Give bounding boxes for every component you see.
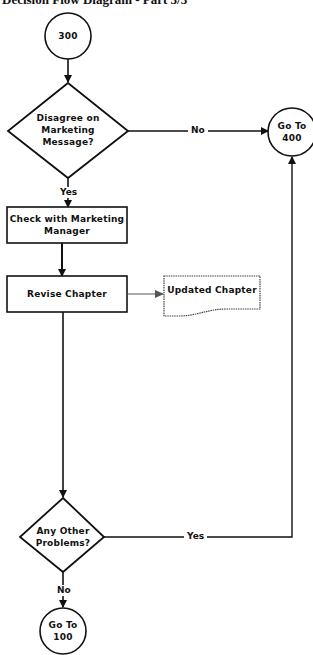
decision1-label: Disagree on Marketing Message? bbox=[28, 112, 108, 148]
decision1-label-line3: Message? bbox=[28, 136, 108, 148]
edge-label-no-2: No bbox=[54, 585, 74, 596]
goto100-label: Go To 100 bbox=[43, 619, 83, 643]
decision2-label: Any Other Problems? bbox=[23, 525, 103, 549]
decision2-label-line2: Problems? bbox=[23, 537, 103, 549]
start-label: 300 bbox=[48, 30, 88, 42]
edge-label-no-1: No bbox=[188, 125, 208, 136]
decision1-label-line1: Disagree on bbox=[28, 112, 108, 124]
goto400-label: Go To 400 bbox=[272, 120, 312, 144]
goto400-label-line1: Go To bbox=[272, 120, 312, 132]
process1-label: Check with Marketing Manager bbox=[7, 213, 127, 237]
document-label: Updated Chapter bbox=[164, 284, 260, 296]
process2-label: Revise Chapter bbox=[7, 288, 127, 300]
edge-label-yes-2: Yes bbox=[184, 531, 207, 542]
edge-label-yes-1: Yes bbox=[57, 187, 80, 198]
goto400-label-line2: 400 bbox=[272, 132, 312, 144]
decision2-label-line1: Any Other bbox=[23, 525, 103, 537]
goto100-label-line1: Go To bbox=[43, 619, 83, 631]
process1-label-line2: Manager bbox=[7, 225, 127, 237]
goto100-label-line2: 100 bbox=[43, 631, 83, 643]
process1-label-line1: Check with Marketing bbox=[7, 213, 127, 225]
document-shape bbox=[164, 276, 260, 316]
decision1-label-line2: Marketing bbox=[28, 124, 108, 136]
flowchart-canvas bbox=[0, 0, 313, 655]
edge-decision2-yes bbox=[104, 157, 292, 537]
